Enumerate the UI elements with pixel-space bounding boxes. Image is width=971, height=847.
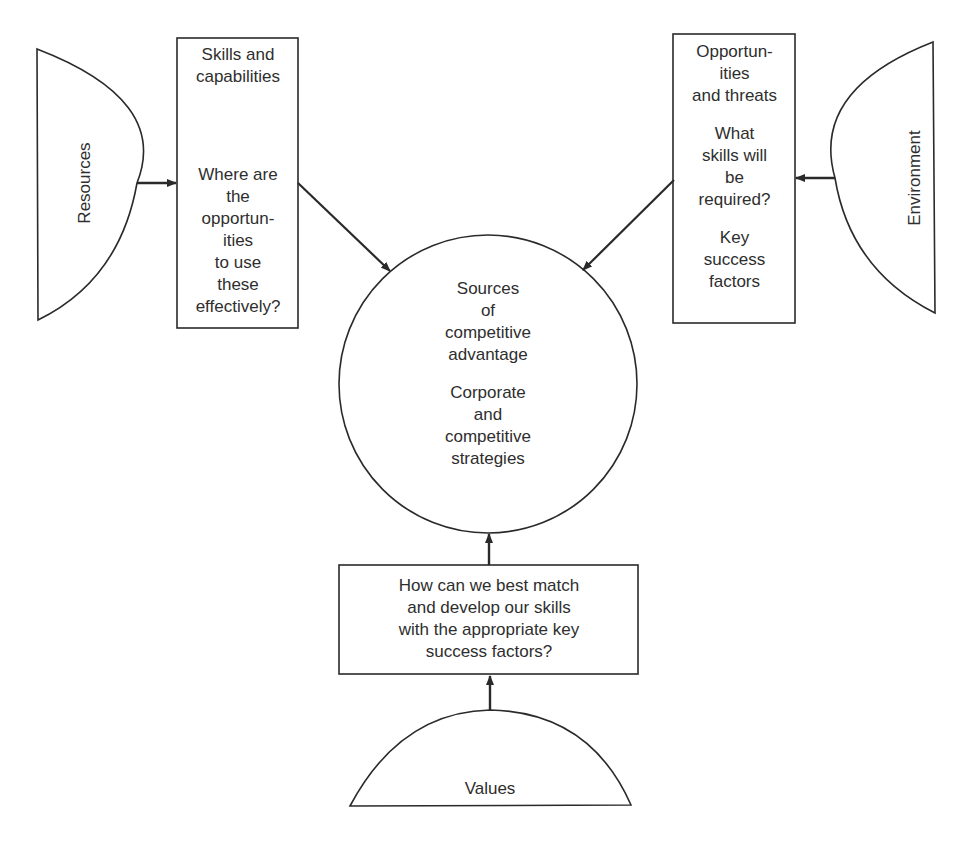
match-line: and develop our skills [340,597,638,619]
opportunities-question-line: be [674,167,795,189]
skills-title-line: Skills and [178,44,298,66]
match-line: How can we best match [340,575,638,597]
skills-box-text: Skills and capabilities Where are the op… [178,44,298,318]
circle-top-line: competitive [398,322,578,344]
circle-bottom-line: strategies [398,448,578,470]
match-line: success factors? [340,641,638,663]
circle-top-line: advantage [398,344,578,366]
opportunities-question-line: required? [674,189,795,211]
circle-top-line: of [398,300,578,322]
arrow-opportunities-to-circle [583,180,674,270]
opportunities-question-line: skills will [674,145,795,167]
opportunities-title-line: Opportun- [674,41,795,63]
opportunities-title-line: and threats [674,85,795,107]
match-box-text: How can we best match and develop our sk… [340,575,638,663]
resources-label: Resources [75,138,95,228]
circle-bottom-line: competitive [398,426,578,448]
match-line: with the appropriate key [340,619,638,641]
opportunities-box-text: Opportun- ities and threats What skills … [674,41,795,293]
opportunities-question-line: What [674,123,795,145]
opportunities-title-line: ities [674,63,795,85]
arrow-skills-to-circle [298,183,390,271]
circle-top-line: Sources [398,278,578,300]
skills-question-line: opportun- [178,208,298,230]
skills-question-line: Where are [178,164,298,186]
skills-title-line: capabilities [178,66,298,88]
circle-text: Sources of competitive advantage Corpora… [398,278,578,470]
circle-bottom-line: and [398,404,578,426]
values-label: Values [420,778,560,800]
environment-label: Environment [905,123,925,233]
key-success-factors-line: factors [674,271,795,293]
skills-question-line: to use [178,252,298,274]
skills-question-line: effectively? [178,296,298,318]
key-success-factors-line: Key [674,227,795,249]
skills-question-line: these [178,274,298,296]
skills-question-line: ities [178,230,298,252]
skills-question-line: the [178,186,298,208]
circle-bottom-line: Corporate [398,382,578,404]
key-success-factors-line: success [674,249,795,271]
